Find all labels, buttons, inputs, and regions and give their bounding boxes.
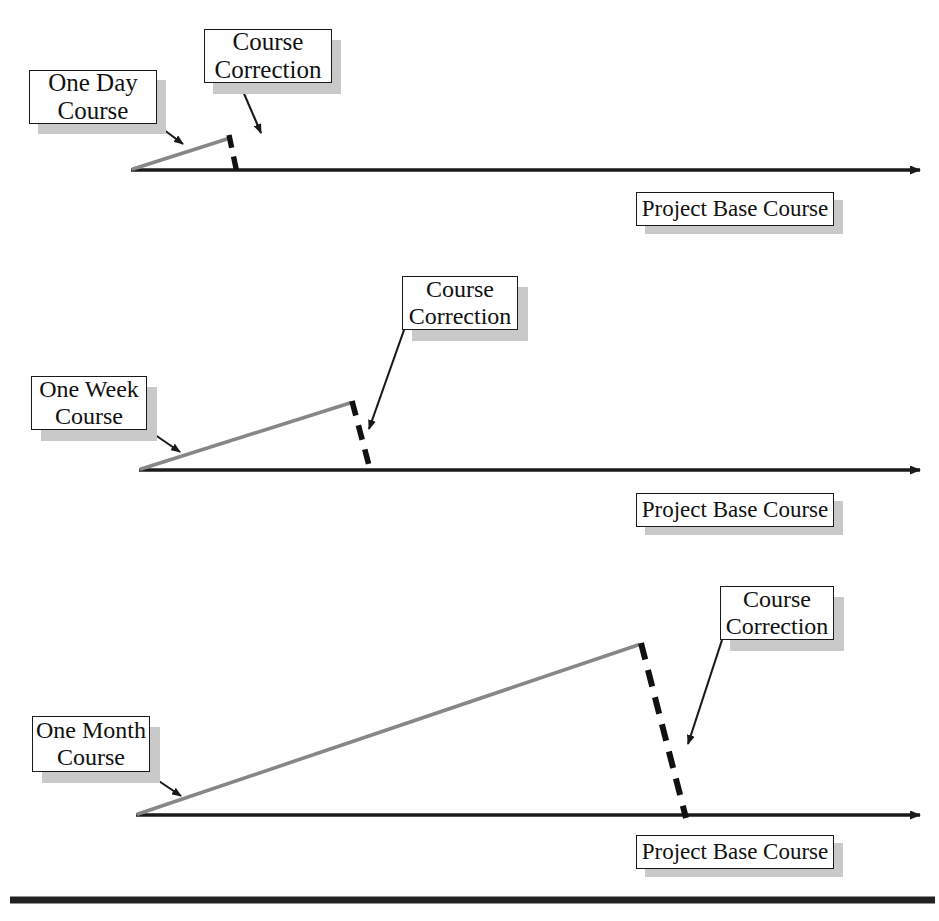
pointer-correction-3 — [688, 640, 722, 744]
label-line-2: Correction — [726, 613, 829, 640]
divergence-line-one-week — [141, 403, 350, 469]
correction-dash-one-week — [352, 401, 371, 473]
label-one-month-course: One Month Course — [32, 716, 150, 772]
diagram-canvas: One Day Course Course Correction Project… — [0, 0, 939, 921]
label-course-correction-1: Course Correction — [204, 29, 332, 83]
label-line-1: One Month — [36, 717, 146, 744]
divergence-line-one-day — [133, 139, 227, 169]
label-text: Project Base Course — [642, 497, 829, 523]
label-line-1: Course — [233, 28, 304, 56]
label-line-2: Course — [57, 744, 125, 771]
label-one-week-course: One Week Course — [31, 376, 147, 430]
label-text: Project Base Course — [642, 839, 829, 865]
label-line-1: One Week — [39, 376, 139, 403]
label-line-2: Course — [55, 403, 123, 430]
label-project-base-course-3: Project Base Course — [636, 835, 834, 869]
correction-dash-one-month — [641, 643, 686, 818]
label-line-2: Correction — [409, 303, 512, 330]
label-course-correction-3: Course Correction — [720, 586, 834, 640]
label-line-1: One Day — [48, 69, 138, 97]
label-line-1: Course — [426, 276, 494, 303]
label-project-base-course-2: Project Base Course — [636, 493, 834, 527]
pointer-correction-2 — [369, 330, 404, 429]
label-text: Project Base Course — [642, 196, 829, 222]
divergence-line-one-month — [138, 645, 638, 814]
label-project-base-course-1: Project Base Course — [636, 192, 834, 226]
label-line-2: Course — [58, 97, 129, 125]
correction-dash-one-day — [229, 135, 237, 173]
label-course-correction-2: Course Correction — [402, 276, 518, 330]
label-one-day-course: One Day Course — [29, 70, 157, 124]
label-line-1: Course — [743, 586, 811, 613]
label-line-2: Correction — [215, 56, 322, 84]
